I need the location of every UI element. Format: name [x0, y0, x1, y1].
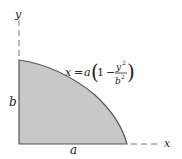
width-label-a: a [70, 143, 77, 157]
height-label-b: b [9, 95, 17, 109]
parabolic-area-diagram: y x b a x = a ( 1 − y 2 b 2 ) [0, 0, 182, 159]
eq-num-var: y [115, 62, 122, 72]
eq-right-paren: ) [127, 60, 135, 84]
eq-coef: a [84, 66, 91, 79]
eq-equals: = [74, 66, 83, 79]
y-axis-label: y [14, 8, 22, 21]
eq-one: 1 [97, 66, 104, 79]
eq-minus: − [106, 66, 115, 79]
eq-lhs: x [65, 66, 72, 79]
eq-den-exp: 2 [121, 73, 125, 80]
x-axis-label: x [164, 137, 171, 150]
eq-num-exp: 2 [122, 59, 126, 66]
